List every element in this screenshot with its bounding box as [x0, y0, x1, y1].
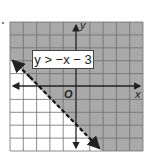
- y-axis-label: y: [80, 19, 86, 31]
- x-axis-label: x: [135, 88, 141, 100]
- inequality-text: y > −x − 3: [34, 52, 91, 67]
- inequality-label: y > −x − 3: [32, 50, 94, 69]
- origin-label: O: [64, 88, 73, 100]
- coordinate-plane: [0, 0, 150, 161]
